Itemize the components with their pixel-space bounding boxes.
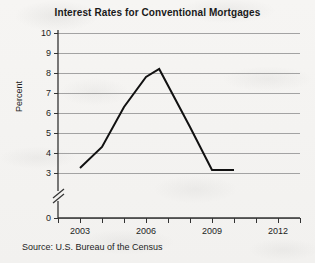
y-axis-group: 0345678910 <box>41 28 58 223</box>
y-tick-label: 3 <box>46 168 51 178</box>
x-tick-label: 2006 <box>136 226 156 236</box>
y-tick-label: 8 <box>46 68 51 78</box>
x-tick-label: 2009 <box>202 226 222 236</box>
y-tick-label: 7 <box>46 88 51 98</box>
source-note: Source: U.S. Bureau of the Census <box>22 242 163 252</box>
y-tick-label: 10 <box>41 28 51 38</box>
data-series-group <box>80 69 234 170</box>
y-tick-label: 9 <box>46 48 51 58</box>
x-tick-label: 2003 <box>70 226 90 236</box>
y-tick-label: 6 <box>46 108 51 118</box>
chart-plot-area: 0345678910 2003200620092012 <box>0 0 315 263</box>
axis-break-marker <box>53 189 64 203</box>
gridlines-group <box>58 33 300 218</box>
x-tick-label: 2012 <box>268 226 288 236</box>
y-tick-label: 4 <box>46 148 51 158</box>
x-axis-group: 2003200620092012 <box>58 218 300 236</box>
series-line <box>80 69 234 170</box>
y-tick-label: 5 <box>46 128 51 138</box>
chart-figure: Interest Rates for Conventional Mortgage… <box>0 0 315 263</box>
y-tick-label: 0 <box>46 213 51 223</box>
